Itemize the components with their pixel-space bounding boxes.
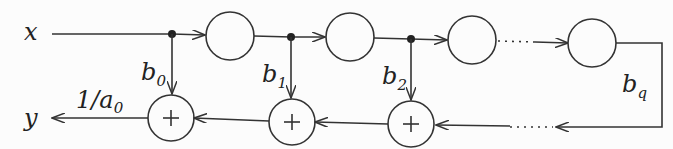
wire-adder2-to-adder1 [315, 122, 388, 124]
wire-to-delay-q [535, 42, 568, 43]
wire-to-delay-1 [172, 34, 205, 35]
ellipsis-top [498, 41, 535, 42]
delay-element-3 [448, 16, 496, 64]
delay-element-2 [326, 13, 374, 61]
output-gain-label: 1/a0 [76, 86, 124, 117]
wire-delay1-out [254, 36, 291, 37]
delay-element-q [568, 19, 616, 67]
diagram-canvas: x y 1/a0 b0 b1 b2 bq [0, 0, 673, 149]
output-label: y [23, 104, 38, 132]
tap-1-label: b1 [262, 60, 287, 92]
tap-q-label: bq [622, 70, 647, 102]
wire-to-delay-3 [411, 39, 447, 40]
input-label: x [24, 18, 38, 46]
wire-adder1-to-adder0 [194, 118, 269, 121]
delay-element-1 [206, 12, 254, 60]
wire-to-adder-3 [436, 125, 510, 126]
block-diagram: x y 1/a0 b0 b1 b2 bq [0, 0, 673, 149]
tap-0-label: b0 [141, 58, 166, 90]
wire-delay2-out [374, 38, 411, 39]
tap-2-label: b2 [382, 62, 407, 94]
